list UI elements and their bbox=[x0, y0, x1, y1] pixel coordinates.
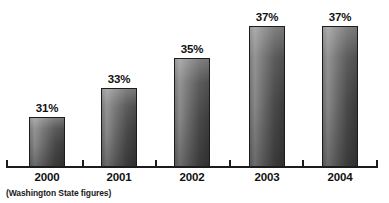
bar-value-label-2001: 33% bbox=[108, 73, 130, 85]
x-axis-tick-1 bbox=[82, 160, 84, 167]
x-axis-label-2002: 2002 bbox=[180, 171, 205, 183]
bar-group-2004: 37% bbox=[322, 0, 358, 170]
chart-footnote: (Washington State figures) bbox=[6, 188, 111, 198]
bar-2001[interactable] bbox=[101, 88, 137, 167]
bar-chart-figure: 31% 33% 35% 37% 37% 2000 2001 200 bbox=[0, 0, 389, 203]
bar-2003[interactable] bbox=[249, 26, 285, 167]
chart-plot-area: 31% 33% 35% 37% 37% bbox=[0, 0, 389, 170]
bar-value-label-2004: 37% bbox=[329, 11, 351, 23]
bar-2004[interactable] bbox=[322, 26, 358, 167]
x-axis-tick-4 bbox=[302, 160, 304, 167]
bar-group-2003: 37% bbox=[249, 0, 285, 170]
bar-group-2002: 35% bbox=[174, 0, 210, 170]
bar-2002[interactable] bbox=[174, 58, 210, 167]
x-axis-tick-end bbox=[376, 160, 378, 167]
x-axis-tick-start bbox=[6, 160, 8, 167]
bar-value-label-2000: 31% bbox=[36, 102, 58, 114]
bar-value-label-2002: 35% bbox=[181, 43, 203, 55]
x-axis-label-2004: 2004 bbox=[328, 171, 353, 183]
bar-2000[interactable] bbox=[29, 117, 65, 167]
x-axis-tick-2 bbox=[155, 160, 157, 167]
bar-value-label-2003: 37% bbox=[256, 11, 278, 23]
x-axis-line bbox=[6, 166, 378, 168]
x-axis-label-2001: 2001 bbox=[107, 171, 132, 183]
x-axis-label-2003: 2003 bbox=[255, 171, 280, 183]
bar-group-2001: 33% bbox=[101, 0, 137, 170]
x-axis-tick-3 bbox=[229, 160, 231, 167]
bar-group-2000: 31% bbox=[29, 0, 65, 170]
x-axis-label-2000: 2000 bbox=[35, 171, 60, 183]
